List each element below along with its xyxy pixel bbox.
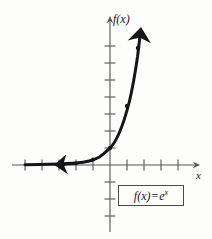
equation-equals: = — [150, 189, 159, 203]
x-axis-label: x — [196, 170, 201, 181]
equation-text: f(x)=ex — [134, 189, 168, 202]
equation-function-name: f(x) — [134, 189, 151, 203]
exponential-curve — [25, 36, 140, 166]
curve-data-markers — [62, 46, 140, 166]
y-axis-label: f(x) — [113, 13, 130, 25]
equation-exponent: x — [165, 188, 169, 197]
y-axis — [105, 22, 116, 232]
exponential-function-figure: f(x) x f(x)=ex — [0, 0, 212, 239]
equation-box: f(x)=ex — [118, 185, 184, 206]
